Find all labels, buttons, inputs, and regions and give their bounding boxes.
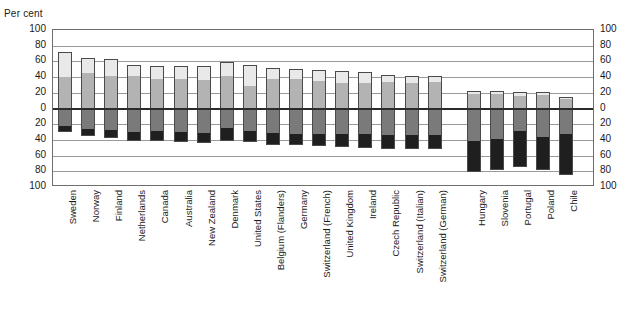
bar-segment-lower-dark (428, 135, 442, 149)
x-tick-label: Portugal (523, 190, 533, 225)
bar-segment-lower-mid (467, 109, 481, 141)
x-tick-label: Hungary (477, 190, 487, 226)
bar-segment-lower-dark (405, 135, 419, 148)
bar-segment-upper-light (150, 66, 164, 79)
x-tick-label: Sweden (68, 190, 78, 224)
bar-segment-lower-mid (150, 109, 164, 132)
y-tick-label-left: 60 (6, 55, 46, 65)
bar-segment-lower-dark (58, 126, 72, 132)
bar-segment-upper-light (536, 92, 550, 95)
bar-segment-upper-mid (220, 76, 234, 109)
x-tick-label-text: Switzerland (German) (438, 190, 448, 282)
bar-segment-upper-mid (150, 79, 164, 109)
bar-segment-upper-mid (467, 94, 481, 108)
x-tick-label-text: Hungary (477, 190, 487, 226)
x-tick-label: Finland (114, 190, 124, 221)
x-tick-label: Netherlands (137, 190, 147, 241)
y-tick-label-right: 100 (600, 24, 640, 34)
bar-segment-lower-mid (312, 109, 326, 135)
bar-segment-upper-mid (197, 80, 211, 108)
x-tick-label-text: Chile (569, 190, 579, 212)
bar-segment-lower-mid (559, 109, 573, 134)
bar-segment-upper-light (490, 91, 504, 94)
y-axis-unit-caption: Per cent (4, 8, 43, 19)
bar-segment-lower-dark (266, 133, 280, 145)
x-tick-label-text: United States (253, 190, 263, 247)
bar-segment-upper-mid (335, 83, 349, 109)
bar-segment-lower-mid (335, 109, 349, 134)
bar-segment-lower-mid (104, 109, 118, 130)
y-tick-label-right: 40 (600, 134, 640, 144)
bar-segment-upper-mid (81, 73, 95, 108)
bar-segment-lower-dark (104, 130, 118, 138)
bar-segment-upper-mid (381, 82, 395, 109)
bar-segment-lower-dark (197, 133, 211, 143)
bar-segment-lower-dark (220, 128, 234, 141)
bar-segment-upper-light (289, 69, 303, 79)
x-tick-label: New Zealand (207, 190, 217, 246)
x-tick-label: Poland (546, 190, 556, 220)
bar-segment-upper-mid (104, 76, 118, 108)
x-tick-label-text: United Kingdom (345, 190, 355, 258)
bar-segment-upper-light (220, 62, 234, 75)
x-tick-label-text: Czech Republic (391, 190, 401, 257)
y-tick-label-left: 80 (6, 40, 46, 50)
chart-root: Per cent SwedenNorwayFinlandNetherlandsC… (0, 0, 642, 315)
y-tick-label-left: 80 (6, 165, 46, 175)
bar-segment-lower-dark (381, 135, 395, 149)
bar-segment-lower-mid (220, 109, 234, 129)
x-tick-label-text: Belgium (Flanders) (276, 190, 286, 270)
bar-segment-lower-dark (289, 134, 303, 146)
bar-segment-lower-dark (312, 134, 326, 146)
y-tick-label-left: 0 (6, 103, 46, 113)
bar-segment-upper-light (428, 76, 442, 82)
y-tick-label-right: 40 (600, 71, 640, 81)
x-tick-label: United Kingdom (345, 190, 355, 258)
bar-segment-lower-dark (127, 132, 141, 141)
bar-segment-lower-dark (536, 137, 550, 170)
bar-segment-lower-mid (266, 109, 280, 133)
y-tick-label-right: 20 (600, 118, 640, 128)
bar-segment-upper-light (559, 97, 573, 99)
y-tick-label-right: 80 (600, 40, 640, 50)
x-tick-label-text: Canada (160, 190, 170, 223)
bar-segment-lower-dark (513, 131, 527, 166)
bar-segment-upper-mid (405, 83, 419, 108)
x-tick-label-text: Switzerland (Italian) (415, 190, 425, 273)
bar-segment-lower-mid (405, 109, 419, 136)
bar-segment-upper-mid (428, 82, 442, 109)
y-tick-label-right: 60 (600, 55, 640, 65)
y-tick-label-left: 100 (6, 24, 46, 34)
bar-segment-lower-mid (358, 109, 372, 135)
bar-segment-lower-mid (174, 109, 188, 133)
x-tick-label: Switzerland (German) (438, 190, 448, 282)
bar-segment-upper-mid (312, 81, 326, 108)
zero-gridline (53, 108, 593, 110)
x-tick-label: United States (253, 190, 263, 247)
x-tick-label: Czech Republic (391, 190, 401, 257)
x-tick-label: Denmark (230, 190, 240, 229)
y-tick-label-right: 100 (600, 181, 640, 191)
bar-segment-lower-dark (467, 141, 481, 172)
bar-segment-lower-mid (381, 109, 395, 136)
bar-segment-lower-dark (174, 132, 188, 142)
y-tick-label-right: 20 (600, 87, 640, 97)
bar-segment-upper-mid (536, 95, 550, 108)
y-tick-label-left: 60 (6, 150, 46, 160)
bar-segment-upper-mid (358, 83, 372, 108)
bar-segment-lower-mid (289, 109, 303, 134)
bar-segment-upper-light (127, 65, 141, 76)
x-tick-label-text: Finland (114, 190, 124, 221)
bar-segment-upper-light (381, 75, 395, 82)
bar-segment-lower-mid (513, 109, 527, 132)
bar-segment-upper-mid (58, 77, 72, 108)
x-tick-label: Australia (184, 190, 194, 227)
x-tick-label-text: Poland (546, 190, 556, 220)
y-tick-label-left: 20 (6, 118, 46, 128)
x-tick-label: Chile (569, 190, 579, 212)
bar-segment-lower-dark (81, 129, 95, 136)
bar-segment-upper-mid (490, 94, 504, 108)
bar-segment-lower-dark (150, 131, 164, 141)
x-tick-label-text: Denmark (230, 190, 240, 229)
bar-segment-upper-mid (266, 79, 280, 109)
